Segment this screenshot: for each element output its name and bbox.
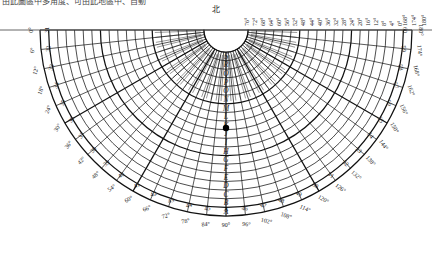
svg-text:72°: 72°: [161, 211, 171, 219]
top-angle-label: 56°: [284, 17, 290, 26]
svg-text:49: 49: [295, 189, 303, 198]
svg-text:24°: 24°: [44, 104, 53, 115]
outer-angle-label: 150°: [389, 121, 400, 134]
chart-canvas: 由此圖區中多角度、可由此地區中、自動 SRQPONMLKJIHGFEDCBA 3…: [0, 0, 432, 256]
svg-text:32°: 32°: [333, 17, 339, 26]
svg-text:28°: 28°: [341, 17, 347, 26]
sector-code: 58: [397, 63, 405, 71]
top-angle-label: 28°: [341, 17, 347, 26]
svg-text:56°: 56°: [284, 17, 290, 26]
svg-text:60°: 60°: [123, 194, 134, 204]
svg-text:54: 54: [366, 131, 375, 140]
svg-text:126°: 126°: [334, 182, 347, 194]
svg-text:102°: 102°: [260, 217, 273, 225]
top-angle-label: 174°: [411, 14, 417, 26]
outer-angle-label: 72°: [161, 211, 171, 219]
top-angle-label: 40°: [317, 17, 323, 26]
svg-text:A: A: [224, 205, 229, 212]
sector-code: 37: [76, 131, 85, 140]
svg-text:8°: 8°: [381, 20, 387, 26]
outer-angle-label: 60°: [123, 194, 134, 204]
top-angle-label: 48°: [300, 17, 306, 26]
svg-text:52°: 52°: [292, 17, 298, 26]
outer-angle-label: 6°: [29, 47, 36, 54]
outer-angle-label: 24°: [44, 104, 53, 115]
outer-angle-label: 126°: [334, 182, 347, 194]
svg-text:50: 50: [311, 180, 320, 189]
north-character: 北: [212, 5, 220, 14]
sector-code: 47: [260, 201, 268, 209]
sector-code: 50: [311, 180, 320, 189]
svg-text:156°: 156°: [399, 103, 409, 116]
svg-text:54°: 54°: [106, 183, 117, 193]
outer-angle-label: 90°: [222, 222, 231, 228]
svg-text:138°: 138°: [365, 154, 377, 167]
outer-angle-label: 42°: [76, 155, 86, 166]
svg-text:132°: 132°: [350, 169, 363, 181]
svg-text:108°: 108°: [280, 211, 293, 220]
svg-text:42: 42: [149, 189, 157, 198]
outer-angle-label: 78°: [181, 217, 191, 225]
sector-code: 46: [241, 204, 248, 212]
svg-text:58: 58: [397, 63, 405, 71]
svg-text:40°: 40°: [317, 17, 323, 26]
outer-angle-label: 54°: [106, 183, 117, 193]
outer-angle-label: 102°: [260, 217, 273, 225]
top-angle-label: 64°: [268, 17, 274, 26]
sector-code: 40: [116, 170, 125, 179]
svg-text:150°: 150°: [389, 121, 400, 134]
sector-code: 31: [43, 27, 50, 33]
svg-text:18°: 18°: [37, 85, 45, 95]
polar-fan-diagram: SRQPONMLKJIHGFEDCBA 31323334353637383940…: [0, 0, 432, 256]
svg-text:72°: 72°: [252, 17, 258, 26]
top-angle-label: 60°: [276, 17, 282, 26]
top-angle-label: 24°: [349, 17, 355, 26]
outer-angle-label: 96°: [242, 221, 252, 228]
marker-group[interactable]: [223, 125, 229, 131]
outer-angle-label: 0°: [28, 27, 34, 33]
svg-text:84°: 84°: [201, 221, 211, 228]
sector-code: 60: [402, 27, 409, 33]
outer-angle-label: 144°: [378, 138, 390, 151]
svg-text:76°: 76°: [244, 17, 250, 26]
svg-text:0°: 0°: [28, 27, 34, 33]
svg-text:46: 46: [241, 204, 248, 212]
svg-text:32: 32: [44, 45, 52, 52]
top-angle-label: 12°: [373, 17, 379, 26]
svg-text:90°: 90°: [222, 222, 231, 228]
svg-text:30°: 30°: [53, 122, 63, 133]
outer-angle-label: 138°: [365, 154, 377, 167]
outer-angle-label: 108°: [280, 211, 293, 220]
svg-text:47: 47: [260, 201, 268, 209]
svg-text:33: 33: [47, 63, 55, 71]
top-angle-label: 52°: [292, 17, 298, 26]
svg-text:162°: 162°: [407, 84, 416, 97]
data-point-marker[interactable]: [223, 125, 229, 131]
svg-text:40: 40: [116, 170, 125, 179]
top-angle-label: 76°: [244, 17, 250, 26]
sector-code: 54: [366, 131, 375, 140]
top-angle-label: 20°: [357, 17, 363, 26]
svg-text:144°: 144°: [378, 138, 390, 151]
top-angle-label: 168°: [402, 14, 408, 26]
outer-angle-label: 168°: [412, 64, 420, 77]
top-angle-label: 72°: [252, 17, 258, 26]
outer-angle-label: 132°: [350, 169, 363, 181]
svg-text:43: 43: [167, 196, 175, 205]
top-angle-label: 32°: [333, 17, 339, 26]
outer-angle-label: 66°: [142, 204, 153, 213]
svg-text:48°: 48°: [91, 170, 102, 180]
top-angle-label: 44°: [309, 17, 315, 26]
svg-text:20°: 20°: [357, 17, 363, 26]
sector-code: 44: [185, 201, 193, 209]
svg-text:66°: 66°: [142, 204, 153, 213]
svg-text:44: 44: [185, 201, 193, 209]
sector-code: 59: [400, 45, 408, 52]
svg-text:6°: 6°: [29, 47, 36, 54]
svg-text:174°: 174°: [416, 44, 423, 57]
sector-code: 45: [204, 204, 211, 212]
svg-text:168°: 168°: [412, 64, 420, 77]
svg-text:174°: 174°: [411, 14, 417, 26]
svg-text:180°: 180°: [421, 14, 427, 26]
top-angle-label: 4°: [389, 20, 395, 26]
